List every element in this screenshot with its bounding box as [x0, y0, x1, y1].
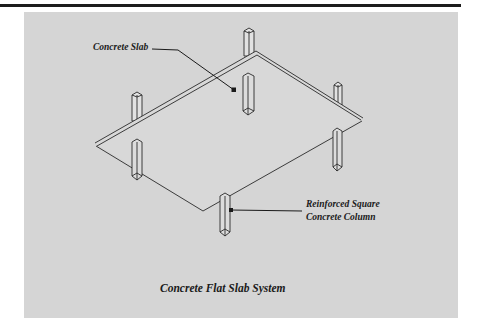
column-center — [243, 73, 254, 115]
column-front — [220, 193, 230, 236]
label-concrete-column: Reinforced Square Concrete Column — [306, 198, 380, 224]
column-leader-line — [230, 209, 303, 212]
column-right-front — [333, 128, 342, 171]
label-concrete-slab: Concrete Slab — [93, 42, 148, 52]
flat-slab-drawing — [0, 0, 481, 328]
figure-caption: Concrete Flat Slab System — [160, 282, 286, 294]
label-column-line2: Concrete Column — [306, 211, 380, 224]
label-column-line1: Reinforced Square — [306, 198, 380, 211]
concrete-slab — [95, 51, 363, 211]
column-left-front — [132, 139, 142, 180]
column-back — [244, 28, 254, 56]
